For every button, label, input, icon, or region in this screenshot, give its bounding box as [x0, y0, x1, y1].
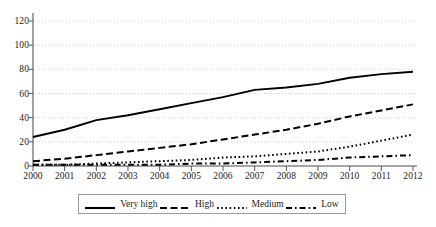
y-tick-label: 100: [3, 40, 29, 50]
x-tick-label: 2012: [393, 171, 433, 182]
legend-item-medium[interactable]: Medium: [217, 199, 284, 209]
x-axis-labels: 2000200120022003200420052006200720082009…: [33, 171, 417, 185]
data-series-group: [33, 72, 413, 165]
legend-swatch-solid: [85, 199, 115, 209]
legend-label: Very high: [120, 199, 157, 209]
y-tick-label: 120: [3, 16, 29, 26]
legend-label: Low: [321, 199, 338, 209]
legend-label: Medium: [252, 199, 284, 209]
y-tick-marks-group: [29, 21, 33, 166]
legend-item-very-high[interactable]: Very high: [85, 199, 157, 209]
legend-swatch-dashed: [160, 199, 190, 209]
chart-canvas: [0, 0, 436, 227]
legend-item-high[interactable]: High: [160, 199, 214, 209]
y-tick-label: 60: [3, 89, 29, 99]
legend-label: High: [195, 199, 214, 209]
legend-swatch-dotted: [217, 199, 247, 209]
y-axis-labels: 120100806040200: [0, 0, 29, 227]
y-tick-label: 80: [3, 64, 29, 74]
legend-item-low[interactable]: Low: [286, 199, 338, 209]
gridlines-group: [33, 21, 417, 166]
y-tick-label: 0: [3, 161, 29, 171]
legend-swatch-dashdot: [286, 199, 316, 209]
line-chart: 120100806040200 200020012002200320042005…: [0, 0, 436, 227]
chart-legend: Very highHighMediumLow: [78, 194, 346, 214]
series-line-high: [33, 104, 413, 161]
series-line-very-high: [33, 72, 413, 137]
axis-lines-group: [33, 13, 417, 166]
y-tick-label: 20: [3, 137, 29, 147]
y-tick-label: 40: [3, 113, 29, 123]
